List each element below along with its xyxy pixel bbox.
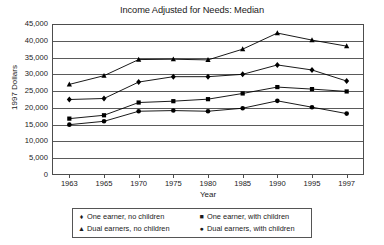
legend-item[interactable]: ▲Dual earners, no children — [77, 225, 197, 233]
gridline — [53, 141, 363, 142]
gridline — [53, 74, 363, 75]
y-tick-label: 35,000 — [0, 54, 48, 62]
y-tick-label: 10,000 — [0, 137, 48, 145]
y-tick-label: 45,000 — [0, 20, 48, 28]
chart-legend: ♦One earner, no children■One earner, wit… — [72, 208, 312, 238]
y-tick-label: 5,000 — [0, 154, 48, 162]
circle-marker-icon: ● — [197, 225, 206, 233]
x-tick-mark — [277, 175, 278, 178]
gridline — [53, 158, 363, 159]
legend-label: Dual earners, with children — [207, 225, 295, 233]
square-marker-icon: ■ — [197, 213, 206, 221]
x-tick-mark — [312, 175, 313, 178]
y-tick-label: 40,000 — [0, 37, 48, 45]
x-tick-label: 1997 — [327, 179, 367, 188]
gridline — [53, 125, 363, 126]
legend-item[interactable]: ●Dual earners, with children — [197, 225, 311, 233]
triangle-marker-icon: ▲ — [77, 225, 86, 233]
x-tick-mark — [104, 175, 105, 178]
y-tick-label: 25,000 — [0, 87, 48, 95]
y-tick-label: 20,000 — [0, 104, 48, 112]
plot-area — [52, 24, 364, 175]
x-tick-mark — [69, 175, 70, 178]
gridline — [53, 91, 363, 92]
x-tick-mark — [243, 175, 244, 178]
legend-label: One earner, with children — [207, 213, 289, 221]
legend-label: One earner, no children — [87, 213, 164, 221]
y-tick-label: 0 — [0, 171, 48, 179]
y-tick-label: 15,000 — [0, 121, 48, 129]
legend-label: Dual earners, no children — [87, 225, 170, 233]
diamond-marker-icon: ♦ — [77, 213, 86, 221]
x-tick-mark — [139, 175, 140, 178]
legend-item[interactable]: ■One earner, with children — [197, 213, 311, 221]
x-tick-mark — [347, 175, 348, 178]
gridline — [53, 58, 363, 59]
x-tick-mark — [208, 175, 209, 178]
chart-title: Income Adjusted for Needs: Median — [0, 5, 384, 15]
gridline — [53, 108, 363, 109]
gridline — [53, 41, 363, 42]
legend-item[interactable]: ♦One earner, no children — [77, 213, 197, 221]
chart-container: Income Adjusted for Needs: Median 1997 D… — [0, 0, 384, 245]
y-tick-label: 30,000 — [0, 70, 48, 78]
x-axis-title: Year — [52, 190, 364, 199]
x-tick-mark — [173, 175, 174, 178]
